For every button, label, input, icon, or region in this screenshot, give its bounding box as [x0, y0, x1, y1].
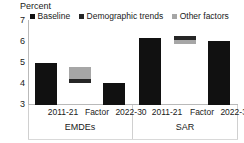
y-axis-tick-4: 4 [5, 79, 25, 88]
y-axis-unit-label: Percent [20, 1, 51, 11]
axis-bottom-rule [28, 139, 238, 140]
bar-sar-2022-30-baseline [208, 41, 230, 105]
y-axis-tick-6: 6 [5, 37, 25, 46]
plot-area: 7 6 5 4 3 [28, 20, 238, 105]
legend-swatch-other-factors [172, 14, 177, 19]
bar-emdes-factor-other-factors [69, 67, 91, 79]
bar-sar-factor-other-factors [174, 40, 196, 45]
y-axis-tick-5: 5 [5, 58, 25, 67]
y-axis-tick-7: 7 [5, 16, 25, 25]
group-label-sar: SAR [133, 122, 237, 132]
bar-emdes-2011-21-baseline [35, 63, 57, 105]
chart-container: Percent Baseline Demographic trends Othe… [0, 0, 244, 143]
category-axis-band: 2011-21 Factor 2022-30 2011-21 Factor 20… [28, 105, 238, 143]
bar-sar-2011-21-baseline [139, 38, 161, 105]
bar-emdes-2022-30-baseline [103, 83, 125, 105]
category-label-sar-2022-30: 2022-30 [203, 107, 244, 117]
bar-emdes-factor-demographic-trends [69, 79, 91, 83]
legend-swatch-demographic-trends [79, 14, 84, 19]
legend-swatch-baseline [30, 14, 35, 19]
group-label-emdes: EMDEs [28, 122, 132, 132]
y-axis-tick-3: 3 [5, 100, 25, 109]
